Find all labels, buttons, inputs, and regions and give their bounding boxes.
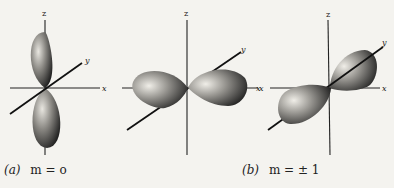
caption-a-tag: (a) (4, 163, 21, 177)
z-label: z (184, 9, 188, 18)
z-label: z (326, 10, 330, 19)
panel-b-y: z y x x (256, 10, 387, 155)
orbital-diagram: z y x z y x z y x x (0, 0, 394, 188)
z-label: z (42, 9, 46, 18)
panel-a: z y x (10, 9, 107, 155)
lower-lobe (32, 88, 60, 148)
caption-b-text: m = ± 1 (269, 163, 320, 177)
front-lobe (278, 85, 331, 124)
left-lobe (132, 71, 188, 108)
y-label: y (381, 38, 387, 47)
y-label: y (240, 45, 246, 54)
caption-a: (a) m = o (4, 163, 67, 177)
caption-b: (b) m = ± 1 (242, 163, 319, 177)
right-lobe (188, 69, 247, 106)
x-label: x (102, 84, 107, 93)
x-neg-label: x (256, 84, 261, 93)
caption-a-text: m = o (30, 163, 66, 177)
x-label: x (382, 84, 387, 93)
caption-b-tag: (b) (242, 163, 259, 177)
panel-b-x: z y x (122, 9, 264, 155)
y-label: y (84, 56, 90, 65)
upper-lobe (31, 32, 53, 88)
